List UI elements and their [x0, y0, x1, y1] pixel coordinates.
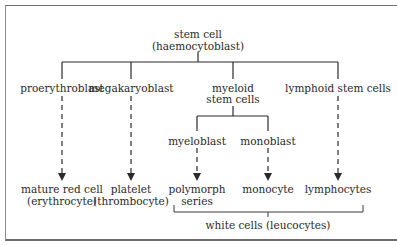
lymphoid-label: lymphoid stem cells — [285, 82, 391, 94]
monoblast-label: monoblast — [240, 135, 295, 147]
arrow-down-icon — [264, 173, 272, 181]
monocyte-label: monocyte — [242, 183, 294, 195]
erythrocyte-sublabel: (erythrocyte) — [27, 195, 97, 207]
polymorph-label: polymorph — [168, 183, 225, 195]
megakaryoblast-label: megakaryoblast — [89, 82, 174, 94]
lymphocytes-label: lymphocytes — [305, 183, 372, 195]
platelet-label: platelet — [111, 183, 152, 195]
erythrocyte-label: mature red cell — [21, 183, 103, 195]
root-label: stem cell — [174, 28, 222, 40]
myeloblast-label: myeloblast — [168, 135, 226, 147]
arrow-down-icon — [193, 173, 201, 181]
arrow-down-icon — [127, 173, 135, 181]
arrow-down-icon — [334, 173, 342, 181]
root-sublabel: (haemocytoblast) — [152, 40, 244, 52]
arrow-down-icon — [58, 173, 66, 181]
white-cells-label: white cells (leucocytes) — [206, 219, 331, 231]
arrowheads — [58, 173, 342, 181]
polymorph-sublabel: series — [181, 195, 213, 207]
platelet-sublabel: (thrombocyte) — [93, 195, 169, 207]
myeloid-sublabel: stem cells — [206, 93, 259, 105]
